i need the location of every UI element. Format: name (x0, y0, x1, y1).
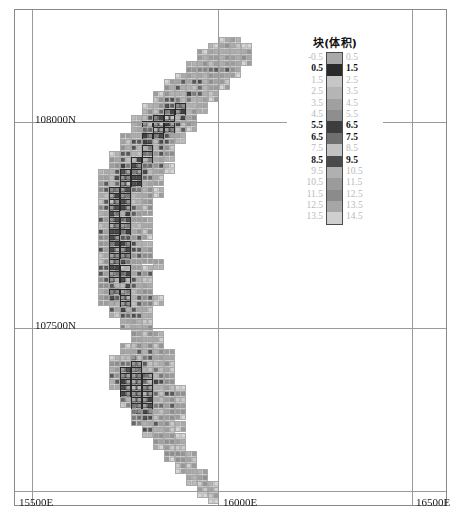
legend-swatch (327, 178, 342, 189)
legend-lower-value: 5.5 (311, 120, 323, 131)
legend-upper-value: 11.5 (346, 177, 362, 188)
gridline-16000E (218, 10, 219, 505)
legend-swatch (327, 87, 342, 98)
legend-swatch (327, 201, 342, 212)
legend-swatch (327, 64, 342, 75)
y-axis-label-108000N: 108000N (35, 113, 76, 125)
legend-title: 块(体积) (290, 34, 380, 50)
legend-upper-bounds: 0.51.52.53.54.55.56.57.58.59.510.511.512… (343, 52, 374, 223)
legend-swatch (327, 190, 342, 201)
legend-lower-value: 11.5 (307, 189, 323, 200)
legend-upper-value: 5.5 (346, 109, 358, 120)
legend-swatch (327, 167, 342, 178)
x-axis-label-16000E: 16000E (223, 496, 257, 508)
legend-upper-value: 1.5 (346, 63, 358, 74)
legend-upper-value: 9.5 (346, 155, 358, 166)
gridline-107500N (15, 328, 446, 329)
legend-lower-value: 7.5 (311, 143, 323, 154)
legend-upper-value: 12.5 (346, 189, 363, 200)
legend-lower-value: 1.5 (311, 75, 323, 86)
legend-swatch (327, 156, 342, 167)
map-frame: 108000N 107500N 15500E 16000E 16500E 块(体… (14, 9, 447, 506)
legend-lower-value: 0.5 (311, 63, 323, 74)
legend-body: -0.50.51.52.53.54.55.56.57.58.59.510.511… (290, 52, 380, 225)
x-axis-label-16500E: 16500E (416, 496, 450, 508)
legend-swatch (327, 53, 342, 64)
legend-upper-value: 13.5 (346, 200, 363, 211)
gridline-15500E (32, 10, 33, 505)
legend-lower-value: 4.5 (311, 109, 323, 120)
legend-upper-value: 3.5 (346, 86, 358, 97)
gridline-16500E (412, 10, 413, 505)
legend-lower-value: 8.5 (311, 155, 323, 166)
legend-lower-value: 13.5 (306, 211, 323, 222)
legend-swatch (327, 212, 342, 223)
legend-lower-value: 9.5 (311, 166, 323, 177)
legend-upper-value: 6.5 (346, 120, 358, 131)
legend-swatch (327, 144, 342, 155)
legend-color-bar (326, 52, 343, 225)
legend-swatch (327, 99, 342, 110)
gridline-bottom-axis (15, 491, 446, 492)
block-model-canvas (15, 10, 448, 507)
legend-lower-value: 2.5 (311, 86, 323, 97)
legend-lower-value: 12.5 (306, 200, 323, 211)
legend-upper-value: 2.5 (346, 75, 358, 86)
legend-lower-value: -0.5 (308, 52, 323, 63)
legend-swatch (327, 76, 342, 87)
legend-upper-value: 10.5 (346, 166, 363, 177)
legend-swatch (327, 110, 342, 121)
legend-lower-value: 3.5 (311, 98, 323, 109)
legend-upper-value: 7.5 (346, 132, 358, 143)
legend: 块(体积) -0.50.51.52.53.54.55.56.57.58.59.5… (287, 32, 383, 229)
legend-lower-value: 6.5 (311, 132, 323, 143)
legend-upper-value: 14.5 (346, 211, 363, 222)
legend-lower-value: 10.5 (306, 177, 323, 188)
y-axis-label-107500N: 107500N (35, 319, 76, 331)
legend-swatch (327, 121, 342, 132)
block-model-figure: 108000N 107500N 15500E 16000E 16500E 块(体… (0, 0, 457, 520)
legend-upper-value: 4.5 (346, 98, 358, 109)
legend-upper-value: 8.5 (346, 143, 358, 154)
legend-upper-value: 0.5 (346, 52, 358, 63)
legend-swatch (327, 133, 342, 144)
x-axis-label-15500E: 15500E (19, 496, 53, 508)
legend-lower-bounds: -0.50.51.52.53.54.55.56.57.58.59.510.511… (296, 52, 326, 223)
